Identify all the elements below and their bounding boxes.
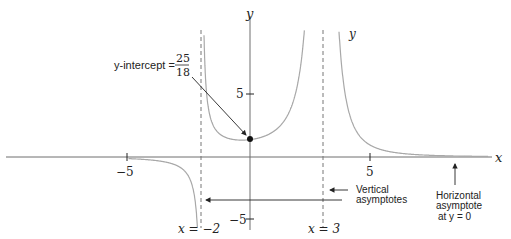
y-intercept-denominator: 18	[176, 66, 190, 79]
horizontal-asymptote-label-3: at y = 0	[438, 211, 472, 222]
intercept-arrow	[192, 77, 246, 135]
curve-right-branch	[339, 32, 488, 157]
y-intercept-point	[247, 136, 253, 142]
curve-middle-branch	[204, 30, 304, 140]
y-intercept-label: y-intercept =	[114, 59, 175, 71]
curve-left-branch	[129, 159, 198, 228]
tick-label-y-5: 5	[236, 87, 244, 101]
y-axis-label: y	[245, 6, 254, 21]
horizontal-asymptote-label-2: asymptote	[436, 200, 483, 211]
tick-label-x-neg5: −5	[116, 165, 134, 179]
asymptote-right-label: x = 3	[308, 222, 340, 236]
y-intercept-numerator: 25	[176, 52, 190, 65]
x-axis-label: x	[495, 150, 503, 165]
graph: y x y −5 5 5 −5 x = −2 x = 3 y-intercept…	[0, 0, 511, 239]
tick-label-x-5: 5	[366, 165, 374, 179]
vertical-asymptotes-label-2: asymptotes	[356, 194, 407, 205]
tick-label-y-neg5: −5	[229, 213, 247, 227]
curve-label: y	[348, 27, 356, 41]
asymptote-left-label: x = −2	[178, 222, 220, 236]
